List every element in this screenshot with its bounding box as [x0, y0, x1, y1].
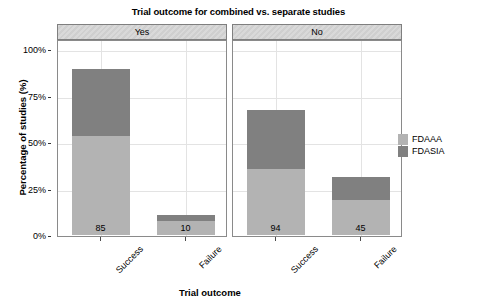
x-tick-label: Success — [288, 244, 319, 275]
facet-strip-label: Yes — [135, 27, 150, 37]
y-tick-mark — [48, 97, 51, 98]
y-tick-mark — [48, 190, 51, 191]
x-tick-label: Failure — [197, 244, 224, 271]
x-tick-mark — [185, 237, 186, 241]
y-tick-mark — [48, 236, 51, 237]
y-tick-mark — [48, 143, 51, 144]
facet-strip-yes: Yes — [57, 24, 227, 40]
bar-value-label: 94 — [247, 223, 305, 233]
x-tick-mark — [360, 237, 361, 241]
bar-yes-failure[interactable]: 10 — [157, 215, 215, 235]
bar-segment-fdasia — [332, 177, 390, 199]
x-tick-label: Success — [113, 244, 144, 275]
legend-swatch-fdaaa — [398, 134, 408, 145]
x-tick-mark — [275, 237, 276, 241]
y-tick-label: 0% — [6, 231, 46, 241]
y-tick-label: 75% — [6, 92, 46, 102]
legend-label: FDAAA — [412, 134, 442, 145]
x-axis-title: Trial outcome — [0, 287, 420, 298]
bar-segment-fdasia — [157, 215, 215, 221]
chart-title: Trial outcome for combined vs. separate … — [0, 6, 477, 17]
bar-no-success[interactable]: 94 — [247, 110, 305, 235]
legend: FDAAAFDASIA — [398, 133, 476, 157]
legend-label: FDASIA — [412, 146, 445, 157]
facet-strip-label: No — [311, 27, 323, 37]
plot-area-no: 9445 — [232, 40, 402, 237]
bar-value-label: 85 — [72, 223, 130, 233]
facet-panel-yes: Yes 8510 — [57, 24, 227, 237]
x-tick-label: Failure — [372, 244, 399, 271]
legend-swatch-fdasia — [398, 146, 408, 157]
bar-value-label: 45 — [332, 223, 390, 233]
bar-segment-fdaaa — [72, 136, 130, 235]
x-tick-mark — [100, 237, 101, 241]
gridline-horizontal — [58, 51, 226, 52]
chart-figure: Trial outcome for combined vs. separate … — [0, 0, 477, 304]
y-tick-label: 25% — [6, 185, 46, 195]
y-axis: 0%25%50%75%100% — [2, 0, 46, 304]
bar-segment-fdasia — [247, 110, 305, 169]
gridline-horizontal — [233, 98, 401, 99]
y-tick-label: 50% — [6, 138, 46, 148]
bar-value-label: 10 — [157, 223, 215, 233]
gridline-vertical — [186, 41, 187, 236]
bar-no-failure[interactable]: 45 — [332, 177, 390, 235]
legend-item[interactable]: FDAAA — [398, 133, 476, 145]
y-tick-mark — [48, 50, 51, 51]
facet-panel-no: No 9445 — [232, 24, 402, 237]
facet-strip-no: No — [232, 24, 402, 40]
bar-segment-fdasia — [72, 69, 130, 137]
legend-item[interactable]: FDASIA — [398, 145, 476, 157]
bar-yes-success[interactable]: 85 — [72, 69, 130, 235]
y-tick-label: 100% — [6, 45, 46, 55]
plot-area-yes: 8510 — [57, 40, 227, 237]
gridline-horizontal — [233, 51, 401, 52]
